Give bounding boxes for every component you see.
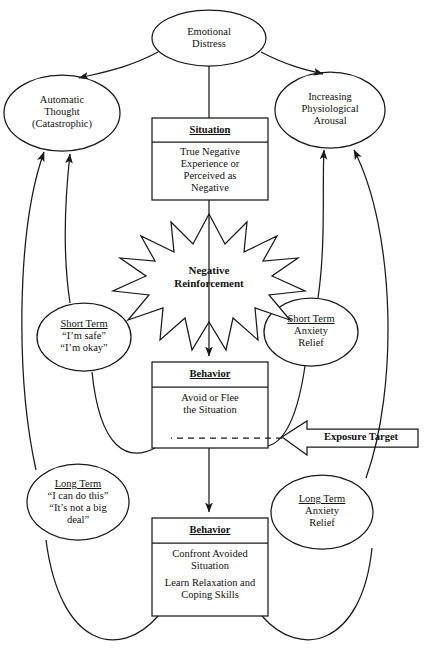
node-automatic-thought [4, 75, 120, 151]
curve-avoid-to-short-term-thought [92, 372, 155, 453]
curve-confront-to-long-term-thought [46, 540, 158, 640]
curve-confront-to-long-term-relief [262, 548, 372, 640]
node-behavior-avoid-box [152, 362, 268, 448]
arrow-distress-to-arousal [261, 52, 323, 74]
node-long-term-thought [27, 464, 129, 540]
arrow-short-term-relief-to-arousal [318, 150, 324, 298]
node-increasing-arousal [275, 72, 385, 148]
arrow-short-term-thought-to-automatic-thought [65, 154, 70, 303]
node-emotional-distress [152, 10, 266, 66]
node-exposure-target-arrow [282, 421, 418, 455]
arrow-long-term-thought-to-automatic-thought [22, 152, 44, 470]
arrow-distress-to-thought [79, 52, 158, 78]
node-behavior-confront-box [152, 518, 268, 616]
node-short-term-thought [37, 303, 131, 371]
anxiety-cycle-diagram [0, 0, 424, 659]
node-long-term-relief [271, 475, 373, 549]
node-situation-box [152, 118, 268, 200]
